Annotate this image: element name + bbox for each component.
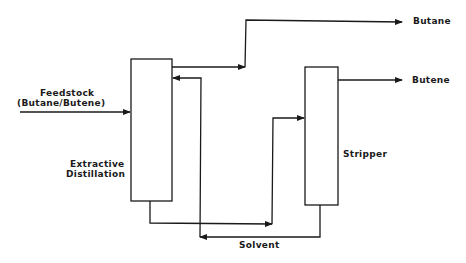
rich-solvent-riser	[272, 118, 304, 224]
process-diagram	[0, 0, 466, 263]
butane-line-riser	[245, 20, 402, 67]
distillation-label: Distillation	[66, 169, 125, 180]
butane-label: Butane	[413, 16, 451, 27]
lean-solvent-line	[200, 205, 320, 237]
extractive-distillation-column	[131, 59, 172, 201]
butene-label: Butene	[412, 75, 450, 86]
lean-solvent-riser	[173, 78, 201, 237]
stripper-label: Stripper	[343, 149, 387, 160]
feedstock-composition-label: (Butane/Butene)	[17, 98, 105, 109]
rich-solvent-line	[150, 201, 272, 224]
stripper-column	[305, 67, 338, 205]
solvent-label: Solvent	[239, 240, 280, 251]
